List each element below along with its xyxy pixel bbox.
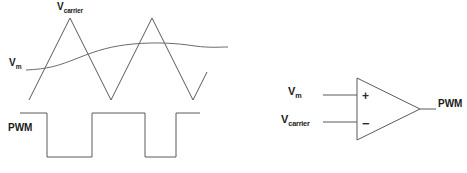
comparator-inverting-input-label-subscript: carrier <box>288 119 309 128</box>
carrier-waveform-label-base: V <box>57 1 64 12</box>
modulating-waveform-label-subscript: m <box>16 63 22 70</box>
modulating-waveform-label-base: V <box>9 57 16 68</box>
plus-icon: + <box>362 90 369 102</box>
triangle-carrier-path <box>29 18 207 100</box>
carrier-waveform-label: Vcarrier <box>57 2 83 15</box>
pwm-square-path <box>20 113 200 157</box>
comparator-inverting-input-label: Vcarrier <box>281 114 310 127</box>
comparator-noninverting-input-label: Vm <box>288 86 302 99</box>
carrier-waveform-label-subscript: carrier <box>64 7 83 14</box>
comparator-output-label: PWM <box>438 99 462 109</box>
sine-modulating-path <box>26 43 228 70</box>
pwm-figure: Vcarrier Vm PWM Vm Vcarrier PWM + − <box>0 0 467 173</box>
modulating-waveform-label: Vm <box>9 58 21 71</box>
minus-icon: − <box>362 117 370 130</box>
waveform-panel <box>0 0 467 173</box>
pwm-waveform-label: PWM <box>8 123 32 133</box>
comparator-noninverting-input-label-subscript: m <box>295 91 301 100</box>
